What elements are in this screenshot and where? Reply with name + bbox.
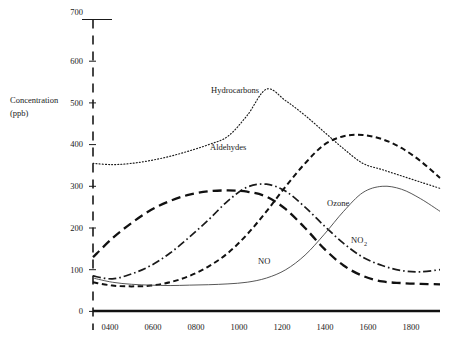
- chart-plot-area: 700 600 500 400 300 200 100 0 Concentrat…: [0, 0, 464, 343]
- series-label-no2-subscript: 2: [364, 240, 367, 247]
- y-tick-label-600: 600: [70, 56, 83, 66]
- x-tick-label-1000: 1000: [231, 322, 248, 332]
- series-label-hydrocarbons: Hydrocarbons: [211, 85, 259, 95]
- x-tick-label-0600: 0600: [145, 322, 162, 332]
- air-pollution-chart: 700 600 500 400 300 200 100 0 Concentrat…: [0, 0, 464, 343]
- x-tick-label-0400: 0400: [102, 322, 119, 332]
- series-label-no2-main: NO: [351, 235, 363, 245]
- y-tick-label-200: 200: [70, 223, 83, 233]
- x-tick-label-0800: 0800: [188, 322, 205, 332]
- x-tick-label-1200: 1200: [274, 322, 291, 332]
- x-tick-label-1600: 1600: [360, 322, 377, 332]
- series-line-ozone: [93, 186, 440, 285]
- y-axis-title-line1: Concentration: [10, 95, 59, 105]
- x-tick-label-1400: 1400: [317, 322, 334, 332]
- y-tick-label-100: 100: [70, 265, 83, 275]
- y-tick-label-300: 300: [70, 181, 83, 191]
- series-label-aldehydes: Aldehydes: [210, 142, 246, 152]
- series-label-ozone: Ozone: [327, 198, 349, 208]
- series-label-no2: NO 2: [351, 235, 367, 247]
- y-axis-title-line2: (ppb): [10, 108, 29, 118]
- y-tick-label-700: 700: [70, 7, 83, 17]
- y-tick-label-400: 400: [70, 139, 83, 149]
- series-line-no: [93, 190, 440, 284]
- series-line-hydrocarbons: [93, 89, 440, 189]
- series-label-no: NO: [258, 256, 270, 266]
- x-tick-label-1800: 1800: [403, 322, 420, 332]
- y-tick-label-500: 500: [70, 98, 83, 108]
- y-tick-label-0: 0: [79, 306, 83, 316]
